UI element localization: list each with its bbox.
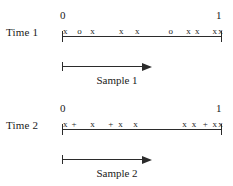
row-label-time-1: Time 1 [6, 26, 56, 38]
axis-end-label-time-2: 1 [216, 102, 222, 114]
axis-end-label-time-1: 1 [216, 9, 222, 21]
axis-mark-x: x [182, 120, 187, 129]
axis-mark-x: x [90, 120, 95, 129]
axis-mark-x: x [195, 27, 200, 36]
axis-mark-o: o [169, 27, 174, 36]
sample-caption-time-2: Sample 2 [62, 167, 172, 180]
axis-mark-o: o [77, 27, 82, 36]
axis-mark-+: + [108, 120, 113, 129]
arrow-head-icon [142, 156, 152, 164]
axis-mark-x: x [218, 27, 223, 36]
axis-mark-x: x [135, 27, 140, 36]
number-line-time-2 [62, 129, 222, 130]
axis-start-label-time-1: 0 [60, 9, 66, 21]
sample-arrow-time-1 [62, 62, 154, 71]
row-label-time-2: Time 2 [6, 119, 56, 131]
figure-number-lines: { "figure": { "description": "Two number… [0, 0, 233, 186]
axis-mark-x: x [63, 120, 68, 129]
axis-mark-x: x [119, 27, 124, 36]
axis-mark-x: x [63, 27, 68, 36]
sample-arrow-time-2 [62, 155, 154, 164]
axis-mark-x: x [213, 120, 218, 129]
axis-mark-x: x [90, 27, 95, 36]
axis-mark-x: x [118, 120, 123, 129]
axis-mark-+: + [203, 120, 208, 129]
axis-start-label-time-2: 0 [60, 102, 66, 114]
number-line-time-1 [62, 36, 222, 37]
time-2-panel: Time 2 0 1 x+x+xxxx+xx Sample 2 [0, 93, 233, 186]
time-1-panel: Time 1 0 1 xoxxxoxxxx Sample 1 [0, 0, 233, 93]
axis-mark-x: x [218, 120, 223, 129]
sample-arrow-shaft-time-1 [62, 66, 146, 67]
axis-mark-x: x [213, 27, 218, 36]
sample-caption-time-1: Sample 1 [62, 74, 172, 87]
sample-arrow-shaft-time-2 [62, 159, 146, 160]
axis-mark-+: + [71, 120, 76, 129]
arrow-head-icon [142, 63, 152, 71]
axis-mark-x: x [133, 120, 138, 129]
axis-mark-x: x [192, 120, 197, 129]
axis-mark-x: x [186, 27, 191, 36]
